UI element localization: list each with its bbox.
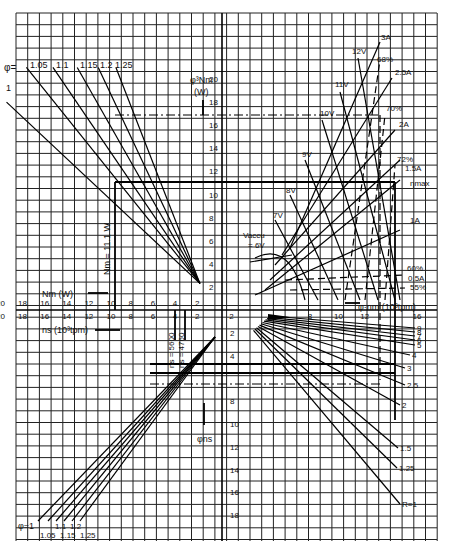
phi-bottom-125-label: 1.25 (80, 531, 96, 540)
tick-label: 2 (195, 299, 200, 308)
tick-label: 18 (18, 299, 27, 308)
efficiency-line (290, 288, 405, 290)
tick-label: 6 (151, 299, 156, 308)
voltage-10v-label: 10V (320, 109, 335, 118)
phi3nm-label: φ³Nm (190, 75, 213, 85)
phi-1-label: 1 (6, 83, 11, 93)
ratio-label: 3 (407, 364, 412, 373)
tick-label: 14 (209, 144, 218, 153)
tick-label: 6 (209, 237, 214, 246)
ratio-label: 1.5 (400, 444, 412, 453)
eta-max-label: ηmax (410, 179, 430, 188)
tick-label: 20 (0, 299, 5, 308)
voltage-11v-label: 11V (335, 80, 349, 89)
tick-label: 2 (209, 283, 214, 292)
phi-bottom-115-label: 1.15 (60, 531, 76, 540)
ratio-label: 4 (412, 351, 417, 360)
tick-label: 14 (62, 312, 71, 321)
ratio-line (261, 324, 405, 368)
ns-axis-label: ns (10³tpm) (42, 325, 88, 335)
nm-note-label: Nm = 11.1 W (102, 222, 112, 275)
phi-line (116, 67, 200, 283)
tick-label: 14 (230, 466, 239, 475)
current-1a-label: 1A (410, 216, 420, 225)
tick-label: 12 (360, 312, 369, 321)
efficiency-55-label: 55% (410, 283, 426, 292)
tick-label: 12 (209, 167, 218, 176)
ratio-label: 2 (402, 401, 407, 410)
tick-label: 16 (40, 299, 49, 308)
ratio-line (255, 329, 397, 468)
ratio-label: 5 (417, 341, 422, 350)
phi-bottom-1-label: φ=1 (18, 521, 34, 531)
tick-label: 8 (209, 214, 214, 223)
tick-label: 4 (230, 352, 235, 361)
chart-grid (16, 13, 437, 541)
tick-label: 16 (413, 312, 422, 321)
phi-115-label: 1.15 (80, 60, 98, 70)
ratio-label: 1.25 (399, 464, 415, 473)
current-2a-label: 2A (399, 120, 409, 129)
current-3a-label: 3A (381, 33, 391, 42)
tick-label: 16 (230, 488, 239, 497)
nomogram-svg: 2468101214161820201816141210864220181614… (0, 0, 449, 554)
vaccu-6v-label: = 6V (248, 241, 265, 250)
tick-label: 4 (209, 260, 214, 269)
tick-label: 4 (173, 299, 178, 308)
tick-label: 18 (230, 511, 239, 520)
ns-4760-label: ns = 4760 (177, 332, 186, 368)
tick-label: 16 (209, 121, 218, 130)
current-05a-label: 0.5A (408, 274, 425, 283)
phi-line (77, 67, 200, 283)
efficiency-70-label: 70% (386, 104, 402, 113)
tick-label: 20 (0, 312, 5, 321)
phi-bottom-105-label: 1.05 (40, 531, 56, 540)
voltage-9v-label: 9V (302, 150, 312, 159)
phi-bottom-12-label: 1.2 (70, 522, 82, 531)
ratio-line (254, 330, 401, 504)
ratio-label: R=1 (402, 500, 417, 509)
tick-label: 8 (129, 312, 134, 321)
vaccu-label: Vaccu (243, 231, 265, 240)
tick-label: 8 (230, 397, 235, 406)
nm-axis-label: Nm (W) (42, 289, 73, 299)
tick-label: 10 (209, 191, 218, 200)
tick-label: 18 (18, 312, 27, 321)
tick-label: 2 (195, 312, 200, 321)
voltage-7v-label: 7V (273, 211, 283, 220)
tick-label: 12 (84, 299, 93, 308)
voltage-8v-label: 8V (286, 186, 296, 195)
phins-axis-label: φns (197, 434, 213, 444)
efficiency-72-label: 72% (397, 155, 413, 164)
current-line (275, 130, 395, 265)
phi-11-label: 1.1 (56, 60, 69, 70)
phi3nm-unit: (W) (194, 87, 209, 97)
phi-bottom-11-label: 1.1 (55, 522, 67, 531)
tick-label: 6 (151, 312, 156, 321)
current-25a-label: 2.5A (395, 68, 412, 77)
tick-label: 16 (40, 312, 49, 321)
tick-label: 10 (230, 420, 239, 429)
efficiency-60-label: 60% (407, 264, 423, 273)
tick-label: 12 (230, 443, 239, 452)
phi-105-label: 1.05 (30, 60, 48, 70)
tick-label: 10 (334, 312, 343, 321)
tick-label: 14 (62, 299, 71, 308)
phi-125-label: 1.25 (115, 60, 133, 70)
phi-12-label: 1.2 (100, 60, 113, 70)
voltage-12v-label: 12V (352, 47, 367, 56)
tick-label: 18 (209, 98, 218, 107)
phinm-axis-label: φ·nm (10³tpm) (358, 302, 416, 312)
current-15a-label: 1.5A (405, 164, 422, 173)
phi-equals-label: φ= (4, 62, 16, 73)
efficiency-68-label: 68% (377, 55, 393, 64)
tick-label: 2 (229, 312, 234, 321)
tick-label: 8 (129, 299, 134, 308)
ns-5600-label: ns = 5600 (167, 332, 176, 368)
nomogram-chart: 2468101214161820201816141210864220181614… (0, 0, 449, 554)
tick-label: 2 (230, 329, 235, 338)
tick-label: 10 (107, 312, 116, 321)
ratio-label: 2.5 (407, 381, 419, 390)
tick-label: 12 (84, 312, 93, 321)
